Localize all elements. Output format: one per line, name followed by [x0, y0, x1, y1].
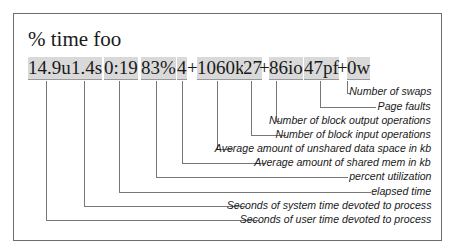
connector-user-time	[46, 81, 47, 220]
connector-elapsed-time	[119, 81, 120, 192]
label-block-output: Number of block output operations	[269, 113, 431, 127]
connector-elapsed-time-h	[119, 192, 371, 193]
connector-system-time	[84, 81, 85, 206]
value-block-output: 86io	[269, 57, 303, 80]
connector-system-time-h	[84, 206, 246, 207]
connector-page-faults	[320, 81, 321, 107]
label-unshared-data: Average amount of unshared data space in…	[215, 141, 431, 155]
label-page-faults: Page faults	[378, 99, 431, 113]
label-elapsed-time: elapsed time	[371, 184, 431, 198]
connector-percent-utilization-h	[156, 177, 348, 178]
connector-swaps	[347, 81, 348, 93]
connector-user-time-h	[46, 220, 259, 221]
connector-percent-utilization	[156, 81, 157, 177]
value-system-time: 1.4s	[71, 57, 102, 80]
connector-block-input	[251, 81, 252, 135]
label-percent-utilization: percent utilization	[349, 169, 431, 183]
label-block-input: Number of block input operations	[276, 127, 431, 141]
label-swaps: Number of swaps	[349, 84, 431, 98]
value-swaps: 0w	[347, 57, 370, 80]
diagram-root: % time foo 14.9u 1.4s 0:19 83% 4 + 1060k…	[0, 0, 458, 252]
label-system-time: Seconds of system time devoted to proces…	[226, 198, 431, 212]
command-title: % time foo	[28, 27, 121, 52]
value-shared-mem: 4	[177, 57, 187, 80]
connector-shared-mem	[182, 81, 183, 163]
label-user-time: Seconds of user time devoted to process	[239, 212, 431, 226]
connector-unshared-data	[217, 81, 218, 149]
value-unshared-data: 1060k	[197, 57, 245, 80]
value-elapsed-time: 0:19	[104, 57, 138, 80]
connector-page-faults-h	[320, 107, 376, 108]
value-percent-utilization: 83%	[141, 57, 176, 80]
value-user-time: 14.9u	[28, 57, 71, 80]
value-page-faults: 47pf	[304, 57, 339, 80]
label-shared-mem: Average amount of shared mem in kb	[255, 155, 431, 169]
